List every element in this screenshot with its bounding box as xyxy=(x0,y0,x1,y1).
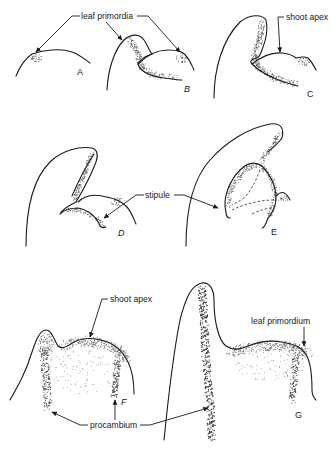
stipple-dot xyxy=(204,312,205,313)
stipple-dot xyxy=(257,357,258,358)
stipple-dot xyxy=(114,374,115,375)
stipple-dot xyxy=(208,407,209,408)
stipple-dot xyxy=(44,397,45,398)
stipple-dot xyxy=(117,379,118,380)
stipple-dot xyxy=(268,362,269,363)
stipple-dot xyxy=(211,409,212,410)
stipple-dot xyxy=(299,367,300,368)
stipple-dot xyxy=(48,405,49,406)
stipple-dot xyxy=(108,343,109,344)
stipple-dot xyxy=(41,59,42,60)
stipple-dot xyxy=(208,438,209,439)
stipple-dot xyxy=(274,194,275,195)
stipple-dot xyxy=(270,186,271,187)
stipple-dot xyxy=(292,361,293,362)
stipple-dot xyxy=(256,165,257,166)
stipple-dot xyxy=(51,386,52,387)
stipple-dot xyxy=(265,348,266,349)
stipple-dot xyxy=(294,372,295,373)
stipple-dot xyxy=(304,355,305,356)
label-leaf-primordia: leaf primordia xyxy=(81,11,133,21)
stipple-dot xyxy=(114,350,115,351)
stipple-dot xyxy=(81,387,82,388)
stipple-dot xyxy=(257,356,258,357)
stipple-dot xyxy=(117,348,118,349)
stipple-dot xyxy=(244,353,245,354)
stipple-dot xyxy=(255,347,256,348)
stipple-dot xyxy=(46,357,47,358)
stipple-dot xyxy=(114,346,115,347)
stipple-dot xyxy=(115,360,116,361)
stipple-dot xyxy=(281,132,282,133)
stipple-dot xyxy=(118,374,119,375)
stipple-dot xyxy=(40,343,41,344)
stipple-dot xyxy=(236,183,237,184)
stipple-dot xyxy=(271,354,272,355)
stipple-dot xyxy=(293,392,294,393)
stipple-dot xyxy=(248,351,249,352)
stipple-dot xyxy=(91,341,92,342)
stipple-dot xyxy=(120,350,121,351)
stipple-dot xyxy=(262,379,263,380)
stipple-dot xyxy=(211,412,212,413)
stipple-dot xyxy=(120,347,121,348)
stipple-dot xyxy=(119,354,120,355)
stipple-dot xyxy=(46,377,47,378)
stipple-dot xyxy=(206,321,207,322)
stipple-dot xyxy=(295,402,296,403)
stipple-dot xyxy=(207,314,208,315)
stipple-dot xyxy=(298,362,299,363)
stipple-dot xyxy=(41,353,42,354)
stipple-dot xyxy=(211,414,212,415)
stipple-dot xyxy=(42,349,43,350)
stipple-dot xyxy=(87,342,88,343)
stipple-dot xyxy=(135,52,136,53)
stipple-dot xyxy=(292,345,293,346)
stipple-dot xyxy=(207,409,208,410)
stipple-dot xyxy=(286,196,287,197)
stipple-dot xyxy=(284,360,285,361)
stipple-dot xyxy=(276,80,277,81)
stipple-dot xyxy=(50,366,51,367)
stipple-dot xyxy=(113,375,114,376)
stipple-dot xyxy=(142,61,143,62)
stipple-dot xyxy=(96,346,97,347)
stipple-dot xyxy=(239,351,240,352)
stipple-dot xyxy=(295,373,296,374)
stipple-dot xyxy=(210,389,211,390)
stipple-dot xyxy=(59,359,60,360)
stipple-dot xyxy=(266,155,267,156)
stipple-dot xyxy=(49,350,50,351)
stipple-dot xyxy=(275,366,276,367)
stipple-dot xyxy=(171,74,172,75)
panel-e: E xyxy=(186,124,290,246)
stipple-dot xyxy=(255,54,256,55)
stipple-dot xyxy=(297,357,298,358)
stipple-dot xyxy=(104,347,105,348)
stipple-dot xyxy=(99,338,100,339)
stipple-dot xyxy=(268,353,269,354)
stipple-dot xyxy=(284,341,285,342)
stipple-dot xyxy=(87,392,88,393)
stipple-dot xyxy=(42,386,43,387)
stipple-dot xyxy=(76,190,77,191)
stipple-dot xyxy=(94,345,95,346)
stipple-dot xyxy=(301,60,302,61)
stipple-dot xyxy=(264,161,265,162)
stipple-dot xyxy=(205,336,206,337)
stipple-dot xyxy=(275,379,276,380)
stipple-dot xyxy=(107,381,108,382)
stipple-dot xyxy=(78,191,79,192)
stipple-dot xyxy=(49,337,50,338)
stipple-dot xyxy=(255,50,256,51)
stipple-dot xyxy=(72,211,73,212)
stipple-dot xyxy=(102,345,103,346)
stipple-dot xyxy=(270,207,271,208)
stipple-dot xyxy=(237,178,238,179)
stipple-dot xyxy=(295,343,296,344)
stipple-dot xyxy=(236,364,237,365)
stipple-dot xyxy=(276,196,277,197)
stipple-dot xyxy=(121,347,122,348)
stipple-dot xyxy=(227,203,228,204)
stipple-dot xyxy=(48,382,49,383)
